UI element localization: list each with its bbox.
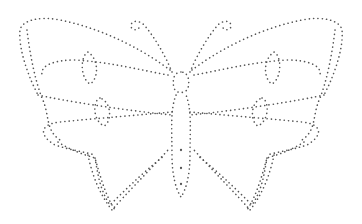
- antenna-left-outline: [131, 21, 172, 72]
- left-hindwing-spot-outline: [95, 98, 110, 126]
- butterfly-outline-icon: [0, 0, 362, 224]
- right-hindwing-inner-curve-outline: [197, 155, 267, 205]
- left-forewing-outer-outline: [20, 18, 170, 95]
- right-forewing-outer-outline: [192, 18, 342, 95]
- body-upper-outline: [173, 72, 188, 93]
- body-dot: [180, 167, 182, 169]
- body-lower-outline: [172, 95, 191, 197]
- right-forewing-spot-outline: [266, 52, 280, 84]
- left-forewing-bottom-outline: [38, 95, 172, 115]
- left-hindwing-inner-curve-outline: [95, 155, 165, 205]
- left-tail-line-outline: [88, 150, 168, 210]
- body-dot: [180, 183, 182, 185]
- antenna-right-outline: [190, 21, 231, 72]
- right-hindwing-top-outline: [190, 112, 318, 155]
- body-dot: [180, 149, 182, 151]
- left-forewing-spot-outline: [82, 52, 96, 84]
- butterfly-tracing-canvas: Butterfly dot-to-dot tracing outline: [0, 0, 362, 224]
- left-forewing-inner-outline: [42, 60, 168, 75]
- right-hindwing-spot-outline: [252, 98, 267, 126]
- left-inner-outer-edge-outline: [27, 30, 60, 140]
- right-forewing-bottom-outline: [190, 95, 324, 115]
- right-inner-outer-edge-outline: [302, 30, 335, 140]
- right-forewing-inner-outline: [194, 60, 320, 75]
- right-tail-line-outline: [194, 150, 274, 210]
- left-hindwing-top-outline: [44, 112, 172, 155]
